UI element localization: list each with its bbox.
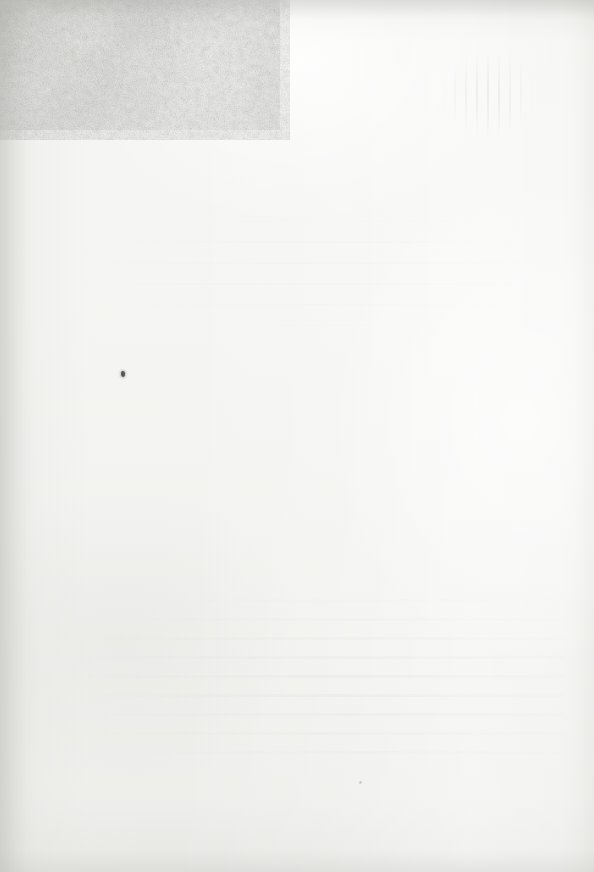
illumination-bloom xyxy=(0,0,594,872)
horizontal-tone-gradient xyxy=(0,0,594,872)
scanned-page xyxy=(0,0,594,872)
paper-fibre-texture-fine xyxy=(0,0,290,140)
faint-speck xyxy=(359,781,362,784)
paper-fibre-texture-coarse xyxy=(0,0,290,140)
show-through-vertical-streaks xyxy=(440,52,536,136)
paper-mottle-texture xyxy=(0,0,280,130)
show-through-text-banding-lower xyxy=(30,590,564,770)
show-through-text-banding-middle xyxy=(40,210,540,330)
edge-vignette xyxy=(0,0,594,872)
vertical-tone-gradient xyxy=(0,0,594,872)
ink-speck xyxy=(121,371,125,377)
